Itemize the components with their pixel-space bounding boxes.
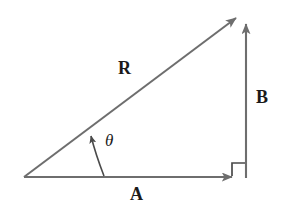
vector-a-label: A [130, 185, 143, 203]
vector-r-line [24, 18, 236, 177]
vector-diagram-canvas [0, 0, 287, 221]
right-angle-marker [232, 163, 245, 176]
vector-r-label: R [118, 59, 131, 77]
angle-theta-label: θ [105, 132, 113, 149]
angle-arc [91, 136, 104, 176]
vector-diagram: R B A θ [0, 0, 287, 221]
vector-b-label: B [256, 88, 268, 106]
